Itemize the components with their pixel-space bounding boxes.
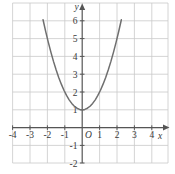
x-tick-label: 2 — [115, 130, 120, 140]
x-tick-label: -1 — [61, 130, 69, 140]
x-axis-label: x — [157, 131, 163, 141]
x-tick-label: -2 — [43, 130, 51, 140]
y-tick-label: 3 — [73, 70, 78, 80]
y-tick-label: -2 — [70, 159, 78, 169]
origin-label: O — [85, 130, 92, 140]
coordinate-plane-plot: -4 -3 -2 -1 1 2 3 4 6 5 4 3 2 1 -1 -2 O … — [0, 0, 175, 174]
y-tick-label: -1 — [70, 141, 78, 151]
x-tick-label: 1 — [97, 130, 102, 140]
x-axis-arrow-icon — [163, 125, 170, 131]
y-tick-label: 4 — [73, 52, 78, 62]
y-axis-arrow-icon — [79, 4, 85, 11]
y-tick-label: 5 — [73, 34, 78, 44]
y-axis-label: y — [73, 2, 79, 12]
y-tick-label: 2 — [73, 88, 78, 98]
x-tick-label: 4 — [149, 130, 154, 140]
parabola-graph-figure: -4 -3 -2 -1 1 2 3 4 6 5 4 3 2 1 -1 -2 O … — [0, 0, 175, 174]
y-tick-label: 6 — [73, 16, 78, 26]
x-tick-label: 3 — [132, 130, 137, 140]
x-tick-label: -3 — [26, 130, 34, 140]
x-tick-label: -4 — [9, 130, 17, 140]
